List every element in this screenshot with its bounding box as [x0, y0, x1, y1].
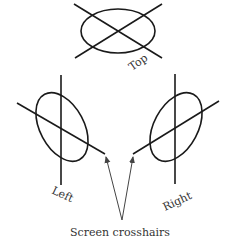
right-label: Right: [161, 189, 195, 214]
top-label: Top: [126, 51, 150, 73]
top-view: Top: [74, 4, 162, 73]
arrow-to-right-crosshair: [122, 157, 133, 220]
right-diagonal-line: [133, 101, 219, 154]
left-view: Left: [17, 75, 105, 205]
crosshair-diagram: Top Left Right Screen crosshairs: [0, 0, 232, 250]
left-ellipse: [25, 84, 99, 170]
left-label: Left: [50, 184, 76, 205]
arrow-to-left-crosshair: [106, 157, 122, 220]
right-view: Right: [133, 74, 219, 214]
caption: Screen crosshairs: [70, 226, 170, 239]
